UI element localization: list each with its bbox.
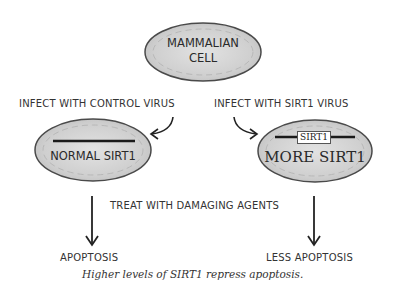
more-sirt1-label: MORE SIRT1 [258,148,372,166]
normal-sirt1-label: NORMAL SIRT1 [35,149,151,163]
left-outcome: APOPTOSIS [60,252,118,263]
sirt1-gene-tag: SIRT1 [297,131,331,144]
mammalian-cell-label: MAMMALIAN CELL [150,36,256,66]
left-instruction: INFECT WITH CONTROL VIRUS [19,98,175,109]
figure-caption: Higher levels of SIRT1 repress apoptosis… [82,268,303,280]
right-outcome: LESS APOPTOSIS [266,252,353,263]
mammalian-line2: CELL [150,51,256,66]
treatment-label: TREAT WITH DAMAGING AGENTS [110,200,279,211]
right-instruction: INFECT WITH SIRT1 VIRUS [214,98,349,109]
mammalian-line1: MAMMALIAN [150,36,256,51]
